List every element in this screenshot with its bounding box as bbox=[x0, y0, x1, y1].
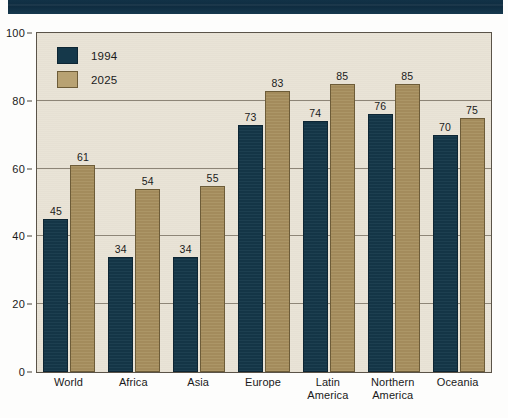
bar-value-label: 85 bbox=[336, 70, 348, 82]
legend-label-1994: 1994 bbox=[91, 50, 117, 62]
legend-label-2025: 2025 bbox=[91, 74, 117, 86]
legend-item-1994: 1994 bbox=[57, 47, 187, 64]
x-tick-label: Oceania bbox=[437, 376, 479, 389]
y-tick-label: 100 bbox=[6, 27, 25, 39]
gridline bbox=[37, 235, 491, 236]
y-tick-mark bbox=[27, 33, 32, 34]
y-tick-mark bbox=[27, 100, 32, 101]
bar-1994-Northern-America: 76 bbox=[368, 114, 393, 372]
y-tick-mark bbox=[27, 236, 32, 237]
bar-value-label: 55 bbox=[207, 172, 219, 184]
chart-plot-area: 4561345434557383748576857075 1994 2025 bbox=[36, 32, 492, 373]
bar-1994-Asia: 34 bbox=[173, 257, 198, 372]
bar-value-label: 61 bbox=[77, 151, 89, 163]
gridline bbox=[37, 100, 491, 101]
bar-1994-Africa: 34 bbox=[108, 257, 133, 372]
x-axis: WorldAfricaAsiaEuropeLatin AmericaNorthe… bbox=[36, 376, 492, 416]
bar-value-label: 83 bbox=[271, 77, 283, 89]
bar-value-label: 75 bbox=[466, 104, 478, 116]
gridline bbox=[37, 168, 491, 169]
x-tick-label: Africa bbox=[119, 376, 148, 389]
bar-value-label: 34 bbox=[115, 243, 127, 255]
x-tick-label: Northern America bbox=[371, 376, 415, 402]
bar-2025-Latin-America: 85 bbox=[330, 84, 355, 372]
bar-2025-Africa: 54 bbox=[135, 189, 160, 372]
bar-value-label: 85 bbox=[401, 70, 413, 82]
legend-swatch-2025 bbox=[57, 71, 78, 88]
gridline bbox=[37, 303, 491, 304]
y-tick-label: 0 bbox=[19, 366, 25, 378]
y-tick-label: 20 bbox=[12, 298, 25, 310]
bar-1994-Europe: 73 bbox=[238, 125, 263, 372]
x-tick-label: World bbox=[54, 376, 83, 389]
bar-2025-Northern-America: 85 bbox=[395, 84, 420, 372]
bar-value-label: 34 bbox=[180, 243, 192, 255]
y-tick-mark bbox=[27, 304, 32, 305]
top-banner-sheen bbox=[8, 4, 503, 6]
bar-value-label: 74 bbox=[309, 107, 321, 119]
bar-2025-Oceania: 75 bbox=[460, 118, 485, 372]
x-tick-label: Europe bbox=[245, 376, 281, 389]
x-tick-label: Latin America bbox=[307, 376, 348, 402]
bar-2025-World: 61 bbox=[70, 165, 95, 372]
chart-legend: 1994 2025 bbox=[57, 47, 187, 95]
y-tick-label: 40 bbox=[12, 230, 25, 242]
y-tick-mark bbox=[27, 372, 32, 373]
bar-2025-Asia: 55 bbox=[200, 186, 225, 372]
y-tick-label: 60 bbox=[12, 163, 25, 175]
bar-2025-Europe: 83 bbox=[265, 91, 290, 372]
bar-1994-Latin-America: 74 bbox=[303, 121, 328, 372]
bar-value-label: 73 bbox=[244, 111, 256, 123]
legend-item-2025: 2025 bbox=[57, 71, 187, 88]
bar-1994-World: 45 bbox=[43, 219, 68, 372]
bar-value-label: 70 bbox=[439, 121, 451, 133]
y-tick-label: 80 bbox=[12, 95, 25, 107]
legend-swatch-1994 bbox=[57, 47, 78, 64]
top-banner bbox=[8, 0, 503, 14]
bar-value-label: 76 bbox=[374, 100, 386, 112]
bar-value-label: 54 bbox=[142, 175, 154, 187]
x-tick-label: Asia bbox=[187, 376, 209, 389]
y-axis: 020406080100 bbox=[0, 32, 32, 373]
bar-value-label: 45 bbox=[50, 205, 62, 217]
bar-1994-Oceania: 70 bbox=[433, 135, 458, 372]
y-tick-mark bbox=[27, 168, 32, 169]
